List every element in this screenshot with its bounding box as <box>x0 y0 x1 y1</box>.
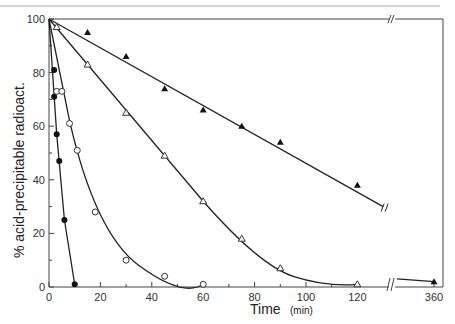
data-curves <box>49 19 434 288</box>
data-point <box>277 265 284 271</box>
y-tick-label: 60 <box>33 120 45 132</box>
x-tick-label: 60 <box>197 291 209 303</box>
data-point <box>161 85 168 91</box>
data-point <box>277 139 284 145</box>
y-tick-label: 0 <box>39 281 45 293</box>
data-point <box>200 281 206 287</box>
y-tick-label: 20 <box>33 227 45 239</box>
data-point <box>72 281 78 287</box>
x-tick-label: 40 <box>146 291 158 303</box>
x-axis-title: Time <box>250 301 281 317</box>
y-axis-title: % acid-precipitable radioact. <box>11 82 27 258</box>
data-point <box>162 273 168 279</box>
x-tick-label: 100 <box>297 291 315 303</box>
data-point <box>51 67 57 73</box>
data-point <box>74 147 80 153</box>
chart: 020406080100 020406080100120360 Time (mi… <box>0 0 455 324</box>
y-tick-label: 100 <box>27 13 45 25</box>
x-tick-label: 360 <box>425 291 443 303</box>
data-point <box>123 53 130 59</box>
data-point <box>54 131 60 137</box>
data-point <box>61 217 67 223</box>
data-point <box>67 121 73 127</box>
data-point <box>56 158 62 164</box>
data-point <box>59 88 65 94</box>
y-axis: 020406080100 <box>27 13 54 293</box>
data-point <box>123 257 129 263</box>
x-axis-unit: (min) <box>290 305 313 316</box>
x-tick-label: 120 <box>348 291 366 303</box>
data-point <box>92 209 98 215</box>
data-point <box>84 29 91 35</box>
data-point <box>354 281 361 287</box>
x-tick-label: 20 <box>94 291 106 303</box>
plot-frame <box>49 15 443 291</box>
data-markers <box>51 24 437 288</box>
x-axis: 020406080100120360 <box>46 282 443 303</box>
data-point <box>354 182 361 188</box>
y-tick-label: 80 <box>33 67 45 79</box>
y-tick-label: 40 <box>33 174 45 186</box>
x-tick-label: 0 <box>46 291 52 303</box>
